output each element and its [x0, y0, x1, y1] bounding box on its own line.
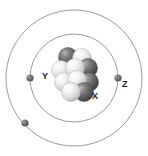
label-y: Y [42, 72, 48, 81]
atom-model-diagram: Y Z X [0, 0, 148, 156]
label-z: Z [122, 80, 128, 89]
atom-diagram-canvas [0, 0, 148, 156]
electron-lower-left [21, 119, 28, 126]
electron-z [114, 74, 121, 81]
electron-y [26, 74, 33, 81]
label-x: X [92, 92, 98, 101]
nucleon-9 [62, 83, 81, 102]
